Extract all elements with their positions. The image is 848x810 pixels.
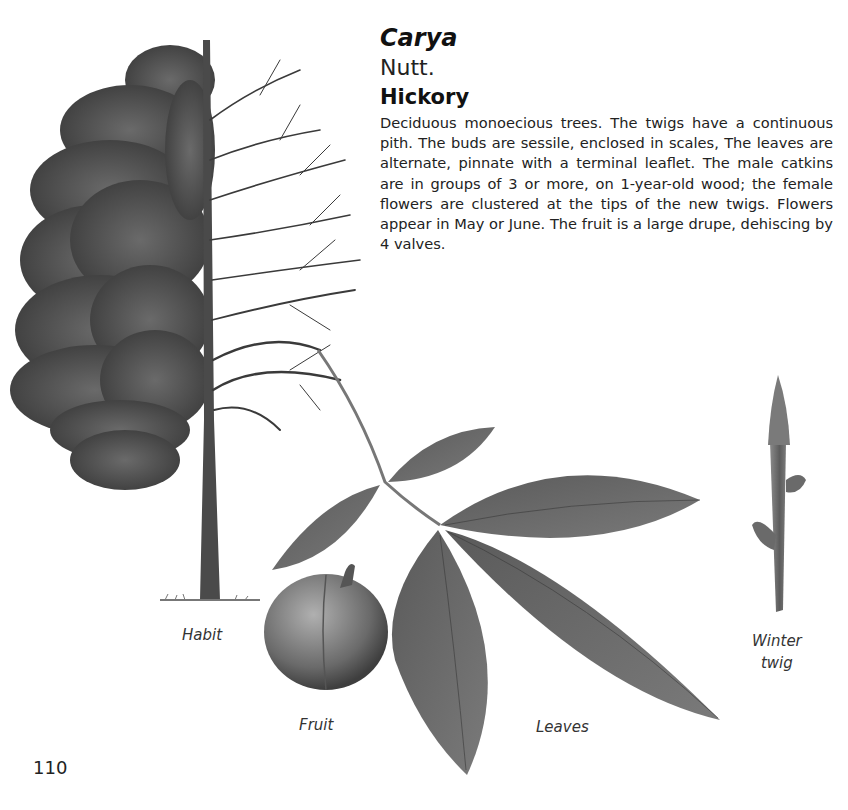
common-name: Hickory [380,85,469,109]
tree-habit-illustration [10,40,360,600]
winter-twig-caption-line1: Winter [752,630,802,652]
habit-caption: Habit [182,626,222,644]
winter-twig-caption: Winter twig [752,630,802,674]
winter-twig-caption-line2: twig [752,652,802,674]
leaves-illustration [272,350,720,775]
description-paragraph: Deciduous monoecious trees. The twigs ha… [380,113,833,254]
genus-name: Carya [380,24,457,52]
fruit-illustration [264,564,388,690]
leaves-caption: Leaves [536,718,589,736]
author-abbreviation: Nutt. [380,55,435,80]
page-number: 110 [33,757,67,778]
fruit-caption: Fruit [299,716,333,734]
winter-twig-illustration [752,375,806,612]
